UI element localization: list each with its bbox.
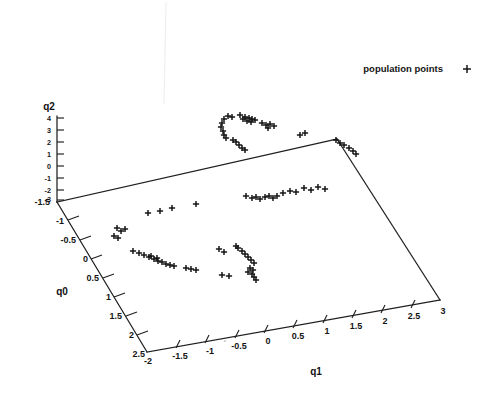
- data-point-marker: [225, 113, 231, 119]
- data-point-marker: [193, 267, 199, 273]
- data-point-marker: [221, 249, 227, 255]
- data-point-marker: [183, 265, 189, 271]
- data-point-marker: [242, 251, 248, 257]
- q1-axis-title: q1: [310, 366, 322, 377]
- scatter-plot-figure: 4 3 2 1 0 -1 -2 -3 q2 -1.5 -1 -0.5 0 0.5: [0, 0, 487, 403]
- q2-tick-label: 3: [47, 126, 51, 135]
- q0-axis-title: q0: [56, 286, 68, 297]
- data-point-marker: [333, 137, 339, 143]
- q1-tick-label: -1: [206, 346, 214, 356]
- data-point-marker: [280, 190, 286, 196]
- data-point-marker: [114, 225, 120, 231]
- q2-tick-label: -1: [45, 174, 51, 183]
- q1-tick-label: 2: [382, 316, 387, 326]
- data-point-marker: [193, 201, 199, 207]
- data-point-marker: [216, 246, 222, 252]
- data-point-marker: [171, 263, 177, 269]
- q0-tick-label: 2: [129, 330, 134, 340]
- data-point-marker: [293, 189, 299, 195]
- data-point-marker: [229, 114, 235, 120]
- q2-tick-label: 1: [47, 150, 51, 159]
- data-point-marker: [169, 205, 175, 211]
- data-point-marker: [157, 208, 163, 214]
- data-point-marker: [322, 186, 328, 192]
- data-point-marker: [287, 188, 293, 194]
- q0-tick-label: 0: [83, 254, 88, 264]
- data-point-marker: [167, 262, 173, 268]
- data-point-marker: [145, 210, 151, 216]
- q1-tick-label: 0: [265, 336, 270, 346]
- scan-line-artifact: [164, 2, 166, 104]
- data-point-marker: [308, 187, 314, 193]
- data-point-marker: [243, 193, 249, 199]
- data-point-marker: [188, 266, 194, 272]
- speck-artifact: [224, 340, 226, 342]
- legend: population points: [363, 63, 471, 74]
- q1-tick-labels: -2 -1.5 -1 -0.5 0 0.5 1 1.5 2 2.5 3: [144, 306, 446, 366]
- q1-tick-label: 1.5: [350, 321, 363, 331]
- q1-tick-label: -2: [144, 356, 152, 366]
- data-point-marker: [226, 273, 232, 279]
- q0-origin-tick-label: -1.5: [34, 197, 50, 207]
- q2-tick-label: 0: [47, 162, 51, 171]
- q0-tick-labels: -1 -0.5 0 0.5 1 1.5 2 2.5: [56, 216, 145, 359]
- q2-tick-marks: [57, 118, 64, 200]
- q1-tick-label: -1.5: [172, 351, 188, 361]
- q0-tick-marks: [68, 216, 148, 335]
- q2-tick-label: -2: [45, 186, 51, 195]
- q0-tick-label: -1: [56, 216, 64, 226]
- data-point-marker: [346, 145, 352, 151]
- q1-tick-label: -0.5: [231, 341, 247, 351]
- data-point-marker: [219, 272, 225, 278]
- legend-plus-marker: [463, 65, 471, 73]
- plot-canvas: 4 3 2 1 0 -1 -2 -3 q2 -1.5 -1 -0.5 0 0.5: [0, 0, 487, 403]
- q1-tick-label: 0.5: [292, 331, 305, 341]
- data-point-marker: [353, 151, 359, 157]
- q2-tick-label: 2: [47, 138, 51, 147]
- q2-axis-title: q2: [43, 101, 55, 112]
- q1-tick-label: 2.5: [408, 311, 421, 321]
- q0-tick-label: 0.5: [86, 273, 99, 283]
- q0-tick-label: 1: [106, 292, 111, 302]
- data-point-marker: [154, 255, 160, 261]
- q2-tick-label: 4: [47, 114, 51, 123]
- q1-tick-label: 3: [440, 306, 445, 316]
- data-point-marker: [245, 254, 251, 260]
- legend-label: population points: [363, 63, 443, 74]
- q0-tick-label: -0.5: [60, 235, 76, 245]
- q2-tick-labels: 4 3 2 1 0 -1 -2 -3: [45, 114, 51, 204]
- data-point-marker: [301, 185, 307, 191]
- data-point-marker: [251, 260, 257, 266]
- data-points-layer: [111, 112, 359, 283]
- data-point-marker: [130, 248, 136, 254]
- data-point-marker: [236, 142, 242, 148]
- data-point-marker: [350, 148, 356, 154]
- q0-tick-label: 1.5: [109, 311, 122, 321]
- data-point-marker: [239, 248, 245, 254]
- data-point-marker: [249, 195, 255, 201]
- data-point-marker: [315, 184, 321, 190]
- right-back-edge: [337, 139, 440, 300]
- q1-tick-label: 1: [324, 326, 329, 336]
- data-point-marker: [248, 257, 254, 263]
